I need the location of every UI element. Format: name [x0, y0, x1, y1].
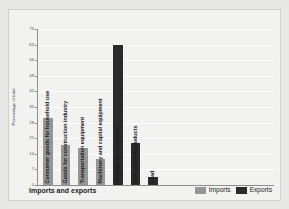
legend-item[interactable]: Imports: [195, 187, 231, 194]
y-tick-label: 7: [32, 167, 34, 171]
chart-legend: ImportsExports: [195, 187, 272, 194]
y-axis-line: [37, 29, 38, 186]
bar-category-label: Goods for construction industry: [62, 100, 67, 183]
y-tick-label: 21: [29, 136, 34, 140]
gridline: [37, 138, 274, 139]
gridline: [37, 123, 274, 124]
gridline: [37, 60, 274, 61]
bar-category-label: Machinery and capital equipment: [97, 98, 102, 183]
gridline: [37, 169, 274, 170]
legend-item[interactable]: Exports: [236, 187, 272, 194]
legend-swatch: [195, 187, 206, 194]
bar-category-label: Transportation equipment: [80, 117, 85, 184]
y-tick-label: 63: [29, 42, 34, 46]
plot-area: 07142128354249566370 Percentage of total…: [37, 29, 274, 186]
y-tick-label: 35: [29, 105, 34, 109]
bar-category-label: Consumer goods for household use: [45, 90, 50, 183]
y-axis-label: Percentage of total: [12, 89, 16, 126]
y-tick-label: 49: [29, 74, 34, 78]
gridline: [37, 76, 274, 77]
y-tick-label: 70: [29, 27, 34, 31]
y-tick-label: 56: [29, 58, 34, 62]
y-tick-label: 28: [29, 120, 34, 124]
chart-title: Imports and exports: [29, 187, 96, 194]
legend-label: Exports: [250, 187, 272, 194]
bar-category-label: Lead: [150, 170, 155, 183]
gridline: [37, 154, 274, 155]
bar-category-label: Fish and fish products: [132, 125, 137, 183]
legend-label: Imports: [209, 187, 231, 194]
gridline: [37, 107, 274, 108]
y-tick-label: 42: [29, 89, 34, 93]
chart-figure: 07142128354249566370 Percentage of total…: [8, 9, 281, 201]
bar-category-label: Shrimps and mollusks: [115, 125, 120, 183]
chart-footer: Imports and exports ImportsExports: [9, 184, 280, 200]
y-tick-label: 14: [29, 152, 34, 156]
gridline: [37, 91, 274, 92]
gridline: [37, 45, 274, 46]
legend-swatch: [236, 187, 247, 194]
gridline: [37, 29, 274, 30]
